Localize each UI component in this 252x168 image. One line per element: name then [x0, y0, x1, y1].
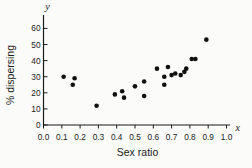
- scatter-point: [70, 82, 75, 87]
- x-tick-label: 0.4: [111, 132, 123, 142]
- scatter-point: [162, 74, 167, 79]
- x-tick-label: 0.1: [56, 132, 68, 142]
- scatter-point: [72, 76, 77, 81]
- x-axis-symbol: x: [235, 122, 241, 133]
- x-tick-label: 0.5: [129, 132, 141, 142]
- x-tick-label: 0.0: [38, 132, 50, 142]
- x-tick-label: 0.6: [148, 132, 160, 142]
- scatter-point: [204, 37, 209, 42]
- scatter-point: [94, 103, 99, 108]
- scatter-point: [178, 73, 183, 78]
- scatter-chart: 0.00.10.20.30.40.50.60.70.80.91.00102030…: [0, 0, 252, 168]
- scatter-point: [184, 66, 189, 71]
- scatter-point: [155, 66, 160, 71]
- x-tick-label: 0.3: [93, 132, 105, 142]
- scatter-point: [113, 92, 118, 97]
- scatter-point: [166, 65, 171, 70]
- scatter-point: [193, 57, 198, 62]
- x-tick-label: 0.8: [184, 132, 196, 142]
- y-tick-label: 50: [31, 40, 41, 50]
- x-tick-label: 1.0: [221, 132, 233, 142]
- chart-axes-and-points: 0.00.10.20.30.40.50.60.70.80.91.00102030…: [31, 16, 232, 142]
- y-tick-label: 20: [31, 88, 41, 98]
- x-axis-title: Sex ratio: [117, 146, 159, 158]
- y-tick-label: 10: [31, 104, 41, 114]
- scatter-point: [61, 74, 66, 79]
- y-tick-label: 60: [31, 23, 41, 33]
- scatter-point: [142, 94, 147, 99]
- scatter-point: [162, 82, 167, 87]
- scatter-figure: 0.00.10.20.30.40.50.60.70.80.91.00102030…: [0, 0, 252, 168]
- scatter-point: [120, 89, 125, 94]
- scatter-point: [133, 84, 138, 89]
- y-axis-symbol: y: [44, 1, 50, 12]
- y-tick-label: 30: [31, 72, 41, 82]
- x-tick-label: 0.7: [166, 132, 178, 142]
- scatter-point: [173, 71, 178, 76]
- x-tick-label: 0.2: [74, 132, 86, 142]
- y-tick-label: 0: [36, 120, 41, 130]
- x-tick-label: 0.9: [202, 132, 214, 142]
- y-tick-label: 40: [31, 56, 41, 66]
- scatter-point: [122, 95, 127, 100]
- scatter-point: [142, 79, 147, 84]
- y-axis-title: % dispersing: [4, 45, 16, 105]
